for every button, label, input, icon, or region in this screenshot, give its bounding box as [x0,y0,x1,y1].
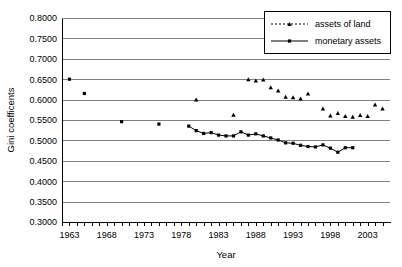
data-point-marker [306,145,309,148]
y-tick-label: 0.6000 [29,95,57,105]
x-tick-label: 1993 [283,230,303,240]
x-tick-marks [63,223,384,226]
data-point-marker [351,146,354,149]
data-point-marker [328,114,332,118]
y-tick-labels: 0.30000.35000.40000.45000.50000.55000.60… [29,13,57,227]
legend[interactable]: assets of landmonetary assets [265,12,391,54]
x-tick-label: 1968 [97,230,117,240]
data-point-marker [373,102,377,106]
data-point-marker [288,39,291,42]
axis-titles: YearGini coefficents [5,87,236,260]
x-tick-label: 1988 [246,230,266,240]
data-point-marker [195,129,198,132]
data-point-marker [277,138,280,141]
data-point-marker [231,113,235,117]
x-tick-labels: 196319681973197819831988199319982003 [59,230,377,240]
y-tick-label: 0.5000 [29,136,57,146]
x-tick-label: 1998 [320,230,340,240]
y-tick-label: 0.8000 [29,13,57,23]
data-point-marker [314,145,317,148]
y-tick-label: 0.6500 [29,75,57,85]
data-point-marker [336,111,340,115]
data-point-marker [269,85,273,89]
chart-canvas: 0.30000.35000.40000.45000.50000.55000.60… [0,0,402,267]
series-assets-of-land [194,77,385,119]
legend-label: assets of land [315,19,371,29]
data-point-marker [157,122,160,125]
data-point-marker [298,96,302,100]
data-point-marker [217,133,220,136]
data-point-marker [329,147,332,150]
data-point-marker [358,113,362,117]
data-point-marker [232,134,235,137]
gini-coefficients-chart: 0.30000.35000.40000.45000.50000.55000.60… [0,0,402,267]
x-tick-label: 1963 [59,230,79,240]
y-tick-label: 0.5500 [29,115,57,125]
data-point-marker [380,107,384,111]
data-point-marker [269,136,272,139]
series-monetary-assets [68,78,354,154]
x-tick-label: 2003 [358,230,378,240]
data-point-marker [365,114,369,118]
data-point-marker [283,95,287,99]
y-axis-title: Gini coefficents [5,87,16,152]
data-point-marker [120,120,123,123]
data-point-marker [284,141,287,144]
data-point-marker [202,132,205,135]
data-point-marker [336,151,339,154]
data-point-marker [254,132,257,135]
data-point-marker [351,115,355,119]
data-point-marker [299,144,302,147]
y-tick-label: 0.7500 [29,34,57,44]
x-tick-label: 1983 [209,230,229,240]
y-tick-label: 0.4000 [29,177,57,187]
y-tick-label: 0.7000 [29,54,57,64]
data-point-marker [194,98,198,102]
data-point-marker [321,143,324,146]
y-tick-label: 0.4500 [29,156,57,166]
data-point-marker [209,131,212,134]
data-point-marker [83,92,86,95]
data-point-marker [276,89,280,93]
legend-label: monetary assets [315,36,382,46]
y-tick-label: 0.3500 [29,197,57,207]
data-point-marker [321,107,325,111]
data-point-marker [262,134,265,137]
x-tick-label: 1973 [134,230,154,240]
data-point-marker [291,142,294,145]
legend-box [265,12,391,54]
data-point-marker [187,125,190,128]
data-point-marker [239,130,242,133]
x-axis-title: Year [216,249,235,260]
data-point-marker [291,95,295,99]
data-point-marker [343,114,347,118]
data-point-marker [68,78,71,81]
data-point-marker [344,146,347,149]
y-tick-label: 0.3000 [29,217,57,227]
data-point-marker [224,134,227,137]
data-point-marker [306,91,310,95]
data-point-marker [247,133,250,136]
x-tick-label: 1978 [171,230,191,240]
